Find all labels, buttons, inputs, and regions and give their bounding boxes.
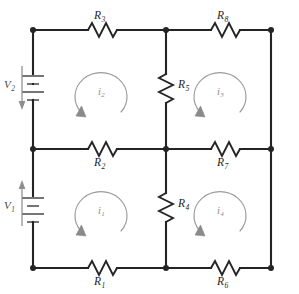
node-dot-middle-right (268, 146, 274, 152)
resistor-R2-zigzag (88, 142, 117, 156)
battery-V1-symbol (22, 198, 44, 222)
voltage-arrow-V1 (19, 180, 26, 226)
mesh-current-label-i2: i2 (98, 87, 104, 98)
battery-V2-symbol (22, 76, 44, 100)
circuit-schematic-svg (0, 0, 299, 294)
resistor-R4-zigzag (159, 193, 173, 222)
voltage-arrow-V2 (19, 66, 26, 110)
resistor-label-R3: R3 (94, 10, 105, 22)
node-dot-middle-middle (163, 146, 169, 152)
node-dot-top-right (268, 27, 274, 33)
resistor-R7-zigzag (211, 142, 240, 156)
node-dot-top-left (30, 27, 36, 33)
resistor-R8-zigzag (211, 23, 240, 37)
mesh-current-label-i1: i1 (98, 206, 104, 217)
resistor-label-R6: R6 (217, 276, 228, 288)
resistor-label-R1: R1 (94, 276, 105, 288)
source-label-V1: V1 (4, 200, 14, 211)
resistor-label-R5: R5 (178, 79, 189, 91)
node-dot-bottom-middle (163, 265, 169, 271)
mesh-current-label-i3: i3 (217, 87, 223, 98)
resistor-label-R7: R7 (217, 157, 228, 169)
resistor-label-R2: R2 (94, 157, 105, 169)
node-dot-bottom-right (268, 265, 274, 271)
source-label-V2: V2 (4, 79, 14, 90)
node-dot-top-middle (163, 27, 169, 33)
resistor-label-R4: R4 (178, 198, 189, 210)
mesh-current-label-i4: i4 (217, 206, 223, 217)
resistor-label-R8: R8 (217, 10, 228, 22)
circuit-diagram-canvas: R3 R8 R2 R7 R1 R6 R5 R4 V2 V1 i2 i3 i1 i… (0, 0, 299, 294)
resistor-R6-zigzag (211, 261, 240, 275)
resistor-R3-zigzag (88, 23, 117, 37)
node-dot-bottom-left (30, 265, 36, 271)
resistor-R5-zigzag (159, 74, 173, 103)
resistor-R1-zigzag (88, 261, 117, 275)
node-dot-middle-left (30, 146, 36, 152)
